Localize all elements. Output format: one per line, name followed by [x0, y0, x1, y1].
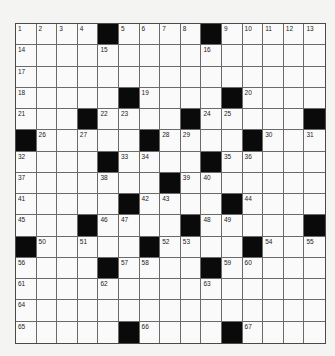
grid-cell[interactable] — [284, 322, 305, 343]
grid-cell[interactable] — [78, 279, 99, 300]
grid-cell[interactable] — [284, 173, 305, 194]
grid-cell[interactable] — [263, 300, 284, 321]
grid-cell[interactable] — [304, 173, 325, 194]
grid-cell[interactable] — [119, 237, 140, 258]
grid-cell[interactable] — [160, 279, 181, 300]
grid-cell[interactable] — [181, 300, 202, 321]
grid-cell[interactable] — [181, 67, 202, 88]
grid-cell[interactable] — [37, 279, 58, 300]
grid-cell[interactable] — [263, 173, 284, 194]
grid-cell[interactable] — [119, 45, 140, 66]
grid-cell[interactable] — [57, 194, 78, 215]
grid-cell[interactable] — [37, 194, 58, 215]
grid-cell[interactable] — [37, 45, 58, 66]
grid-cell[interactable]: 21 — [16, 109, 37, 130]
grid-cell[interactable] — [78, 194, 99, 215]
grid-cell[interactable]: 67 — [243, 322, 264, 343]
grid-cell[interactable] — [57, 215, 78, 236]
grid-cell[interactable] — [201, 300, 222, 321]
grid-cell[interactable]: 25 — [222, 109, 243, 130]
grid-cell[interactable] — [78, 173, 99, 194]
grid-cell[interactable] — [304, 258, 325, 279]
grid-cell[interactable] — [263, 88, 284, 109]
grid-cell[interactable] — [57, 45, 78, 66]
grid-cell[interactable]: 65 — [16, 322, 37, 343]
grid-cell[interactable] — [304, 88, 325, 109]
grid-cell[interactable] — [119, 173, 140, 194]
grid-cell[interactable] — [37, 215, 58, 236]
grid-cell[interactable] — [304, 322, 325, 343]
grid-cell[interactable] — [37, 152, 58, 173]
grid-cell[interactable] — [201, 88, 222, 109]
grid-cell[interactable] — [181, 322, 202, 343]
grid-cell[interactable] — [304, 152, 325, 173]
grid-cell[interactable] — [243, 300, 264, 321]
grid-cell[interactable]: 39 — [181, 173, 202, 194]
grid-cell[interactable] — [37, 173, 58, 194]
grid-cell[interactable]: 47 — [119, 215, 140, 236]
grid-cell[interactable]: 26 — [37, 130, 58, 151]
grid-cell[interactable] — [284, 300, 305, 321]
grid-cell[interactable] — [140, 109, 161, 130]
grid-cell[interactable]: 64 — [16, 300, 37, 321]
grid-cell[interactable] — [181, 88, 202, 109]
grid-cell[interactable] — [304, 67, 325, 88]
grid-cell[interactable] — [140, 173, 161, 194]
grid-cell[interactable] — [57, 300, 78, 321]
grid-cell[interactable]: 31 — [304, 130, 325, 151]
grid-cell[interactable]: 28 — [160, 130, 181, 151]
grid-cell[interactable] — [201, 322, 222, 343]
grid-cell[interactable] — [98, 300, 119, 321]
grid-cell[interactable] — [243, 109, 264, 130]
grid-cell[interactable] — [160, 258, 181, 279]
grid-cell[interactable]: 43 — [160, 194, 181, 215]
grid-cell[interactable]: 27 — [78, 130, 99, 151]
grid-cell[interactable] — [78, 45, 99, 66]
grid-cell[interactable] — [263, 45, 284, 66]
grid-cell[interactable] — [284, 194, 305, 215]
grid-cell[interactable]: 45 — [16, 215, 37, 236]
grid-cell[interactable] — [181, 45, 202, 66]
grid-cell[interactable] — [37, 300, 58, 321]
grid-cell[interactable]: 37 — [16, 173, 37, 194]
grid-cell[interactable]: 50 — [37, 237, 58, 258]
grid-cell[interactable] — [57, 109, 78, 130]
grid-cell[interactable] — [284, 279, 305, 300]
grid-cell[interactable]: 58 — [140, 258, 161, 279]
grid-cell[interactable]: 62 — [98, 279, 119, 300]
grid-cell[interactable] — [119, 300, 140, 321]
grid-cell[interactable] — [98, 194, 119, 215]
grid-cell[interactable] — [160, 45, 181, 66]
grid-cell[interactable] — [98, 67, 119, 88]
grid-cell[interactable] — [37, 109, 58, 130]
grid-cell[interactable]: 23 — [119, 109, 140, 130]
grid-cell[interactable]: 59 — [222, 258, 243, 279]
grid-cell[interactable] — [98, 130, 119, 151]
grid-cell[interactable] — [98, 88, 119, 109]
grid-cell[interactable] — [78, 258, 99, 279]
grid-cell[interactable] — [222, 173, 243, 194]
grid-cell[interactable] — [57, 152, 78, 173]
grid-cell[interactable] — [263, 194, 284, 215]
grid-cell[interactable]: 30 — [263, 130, 284, 151]
grid-cell[interactable] — [222, 300, 243, 321]
grid-cell[interactable] — [78, 300, 99, 321]
grid-cell[interactable]: 18 — [16, 88, 37, 109]
grid-cell[interactable]: 17 — [16, 67, 37, 88]
grid-cell[interactable] — [222, 279, 243, 300]
grid-cell[interactable]: 19 — [140, 88, 161, 109]
grid-cell[interactable]: 35 — [222, 152, 243, 173]
grid-cell[interactable] — [284, 152, 305, 173]
grid-cell[interactable]: 48 — [201, 215, 222, 236]
grid-cell[interactable] — [37, 258, 58, 279]
grid-cell[interactable]: 12 — [284, 24, 305, 45]
grid-cell[interactable] — [78, 152, 99, 173]
grid-cell[interactable]: 13 — [304, 24, 325, 45]
grid-cell[interactable]: 36 — [243, 152, 264, 173]
grid-cell[interactable]: 34 — [140, 152, 161, 173]
grid-cell[interactable]: 24 — [201, 109, 222, 130]
grid-cell[interactable] — [222, 237, 243, 258]
grid-cell[interactable] — [263, 109, 284, 130]
grid-cell[interactable] — [140, 300, 161, 321]
grid-cell[interactable] — [119, 279, 140, 300]
